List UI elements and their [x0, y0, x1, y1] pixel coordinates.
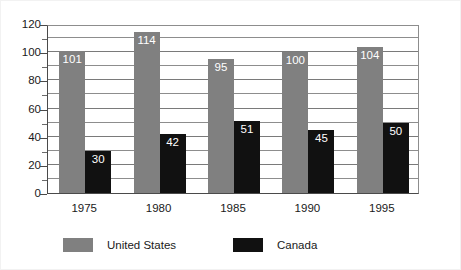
bar-united-states[interactable]: 114 — [134, 32, 160, 193]
bar-united-states[interactable]: 104 — [357, 47, 383, 193]
bar-united-states[interactable]: 95 — [208, 59, 234, 193]
x-axis-tick-label: 1980 — [124, 202, 194, 214]
y-axis-tick-mark — [40, 194, 47, 195]
chart-legend: United StatesCanada — [1, 235, 461, 257]
legend-swatch-icon — [63, 238, 93, 252]
y-axis-tick-mark — [40, 138, 47, 139]
y-axis-tick-label: 120 — [1, 19, 41, 31]
y-axis-tick-label: 0 — [1, 188, 41, 200]
bar-united-states[interactable]: 101 — [59, 51, 85, 193]
bar-group: 9551 — [208, 26, 260, 193]
plot-area: 101301144295511004510450 — [47, 25, 419, 194]
bar-value-label: 101 — [59, 53, 85, 65]
bar-value-label: 45 — [308, 132, 334, 144]
y-axis-tick-label: 80 — [1, 76, 41, 88]
bar-value-label: 30 — [85, 153, 111, 165]
bar-group: 10130 — [59, 26, 111, 193]
bar-group: 10450 — [357, 26, 409, 193]
x-axis-tick-label: 1985 — [198, 202, 268, 214]
bar-united-states[interactable]: 100 — [282, 52, 308, 193]
bar-canada[interactable]: 50 — [383, 123, 409, 193]
legend-label: Canada — [277, 238, 317, 252]
bar-group: 11442 — [134, 26, 186, 193]
bar-value-label: 51 — [234, 123, 260, 135]
bar-canada[interactable]: 51 — [234, 121, 260, 193]
x-axis-tick-label: 1990 — [272, 202, 342, 214]
legend-item[interactable]: Canada — [233, 235, 317, 255]
legend-label: United States — [107, 238, 176, 252]
y-axis-tick-label: 100 — [1, 47, 41, 59]
y-axis-tick-label: 40 — [1, 132, 41, 144]
bar-chart-figure: 120100806040200 101301144295511004510450… — [0, 0, 461, 270]
y-axis-tick-mark — [40, 25, 47, 26]
bar-group: 10045 — [282, 26, 334, 193]
y-axis-tick-mark — [40, 166, 47, 167]
y-axis-tick-mark — [40, 81, 47, 82]
y-axis-tick-mark — [40, 53, 47, 54]
bar-value-label: 100 — [282, 54, 308, 66]
x-axis-tick-label: 1995 — [347, 202, 417, 214]
legend-item[interactable]: United States — [63, 235, 176, 255]
bar-value-label: 114 — [134, 34, 160, 46]
y-axis-tick-label: 60 — [1, 104, 41, 116]
y-axis-tick-label: 20 — [1, 160, 41, 172]
bar-canada[interactable]: 45 — [308, 130, 334, 193]
bar-value-label: 50 — [383, 125, 409, 137]
bar-value-label: 95 — [208, 61, 234, 73]
x-axis-tick-label: 1975 — [49, 202, 119, 214]
y-axis-tick-mark — [40, 110, 47, 111]
legend-swatch-icon — [233, 238, 263, 252]
bar-canada[interactable]: 30 — [85, 151, 111, 193]
bar-value-label: 42 — [160, 136, 186, 148]
bar-canada[interactable]: 42 — [160, 134, 186, 193]
bar-value-label: 104 — [357, 49, 383, 61]
